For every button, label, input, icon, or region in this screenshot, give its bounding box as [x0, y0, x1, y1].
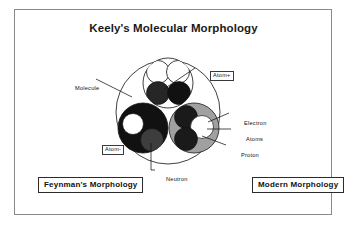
leader-molecule [96, 79, 132, 97]
atom-plus-group [143, 58, 193, 108]
atom-right-group [169, 103, 219, 153]
callout-proton: Proton [241, 152, 259, 158]
callout-electron: Electron [244, 120, 267, 126]
electron-particle [123, 114, 144, 135]
proton-particle [147, 82, 170, 105]
molecule-diagram: Molecule Atom+ Electron Atoms Proton Ato… [14, 9, 332, 215]
callout-atoms: Atoms [246, 136, 263, 142]
neutron-particle [168, 82, 191, 105]
callout-molecule: Molecule [75, 85, 99, 91]
neutron-particle [175, 128, 198, 151]
caption-modern-morphology: Modern Morphology [252, 177, 344, 193]
electron-particle [167, 61, 190, 84]
caption-feynmans-morphology: Feynman's Morphology [38, 177, 143, 193]
callout-neutron: Neutron [166, 176, 188, 182]
atom-minus-group [118, 103, 168, 153]
callout-atom-minus: Atom- [102, 145, 124, 155]
figure-page: Keely's Molecular Morphology [0, 0, 347, 233]
neutron-particle [141, 129, 164, 152]
callout-atom-plus: Atom+ [210, 71, 234, 81]
